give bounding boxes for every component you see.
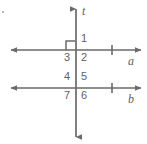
right-angle-marker-icon bbox=[66, 41, 75, 50]
line-label-t: t bbox=[82, 5, 85, 17]
angle-label-6: 6 bbox=[81, 90, 87, 101]
angle-label-2: 2 bbox=[81, 52, 87, 63]
angle-label-3: 3 bbox=[64, 52, 70, 63]
line-label-b: b bbox=[128, 93, 134, 105]
line-label-a: a bbox=[128, 55, 134, 67]
angle-label-4: 4 bbox=[64, 71, 70, 82]
angle-label-5: 5 bbox=[81, 71, 87, 82]
geometry-diagram: 1 2 3 4 5 6 7 t a b bbox=[0, 0, 147, 144]
angle-label-7: 7 bbox=[64, 90, 70, 101]
angle-label-1: 1 bbox=[81, 33, 87, 44]
geometry-canvas bbox=[0, 0, 147, 144]
